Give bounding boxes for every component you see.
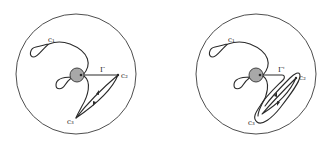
label-c3: c₃ bbox=[67, 118, 74, 126]
label-c2: c₂ bbox=[121, 72, 128, 80]
label-c1: c₁ bbox=[228, 36, 235, 44]
label-gamma: Γ bbox=[100, 66, 105, 74]
arrow-icon bbox=[277, 101, 280, 106]
label-c1: c₁ bbox=[48, 36, 55, 44]
label-c2: c₂ bbox=[299, 74, 306, 82]
basepoint-dot bbox=[259, 74, 262, 77]
panel-right: c₁ c₂ c₃ Γ' bbox=[196, 14, 316, 134]
panel-left: c₁ c₂ c₃ Γ bbox=[16, 14, 136, 134]
c2-point bbox=[295, 77, 297, 79]
label-gamma-prime: Γ' bbox=[278, 66, 285, 74]
c2-point bbox=[117, 74, 119, 76]
label-c3: c₃ bbox=[248, 119, 255, 127]
diagram-canvas: c₁ c₂ c₃ Γ c₁ c₂ c₃ Γ' bbox=[0, 0, 334, 146]
lens-c3-c2 bbox=[76, 75, 118, 118]
basepoint-dot bbox=[80, 74, 83, 77]
